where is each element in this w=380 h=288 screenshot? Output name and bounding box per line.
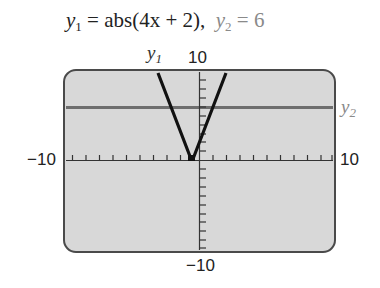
- graph-screen: [0, 0, 380, 288]
- y1-vertex: [188, 155, 195, 161]
